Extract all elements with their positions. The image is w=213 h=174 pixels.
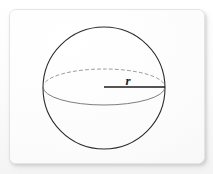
sphere-diagram: r (0, 0, 213, 174)
equator-visible-arc (43, 87, 165, 105)
radius-label: r (125, 73, 131, 88)
equator-hidden-arc (43, 69, 165, 87)
sphere-outline-circle (43, 27, 165, 149)
diagram-stage: r (0, 0, 213, 174)
